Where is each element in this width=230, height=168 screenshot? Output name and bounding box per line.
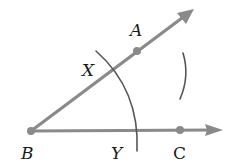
point-c xyxy=(176,126,184,134)
ray-bc xyxy=(31,124,223,136)
ray-ba xyxy=(31,9,194,131)
label-c: C xyxy=(173,143,186,163)
point-a xyxy=(133,47,141,55)
arrowhead-bc-icon xyxy=(205,124,223,136)
geometry-diagram: A X B Y C xyxy=(0,0,230,168)
label-x: X xyxy=(80,60,95,80)
label-a: A xyxy=(128,20,142,40)
point-b xyxy=(27,127,35,135)
label-b: B xyxy=(20,143,34,163)
arc-interior xyxy=(180,53,186,99)
label-y: Y xyxy=(111,143,124,163)
